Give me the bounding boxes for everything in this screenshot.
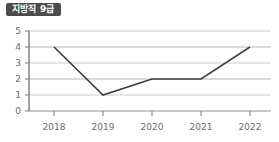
- x-tick-label: 2019: [92, 122, 115, 132]
- x-axis: [54, 111, 250, 116]
- chart-title-badge: 지방직 9급: [6, 3, 61, 16]
- x-tick-label: 2021: [190, 122, 213, 132]
- gridlines: [29, 31, 271, 111]
- y-tick-label: 1: [15, 90, 21, 100]
- line-chart-canvas: 5 4 3 2 1 0 2018 2019 2020 2021 2022: [0, 20, 279, 142]
- y-tick-label: 4: [15, 42, 21, 52]
- y-axis: [25, 31, 29, 111]
- page-title: 지방직 9급: [12, 5, 55, 14]
- y-tick-label: 5: [15, 26, 21, 36]
- y-tick-label: 3: [15, 58, 21, 68]
- x-tick-labels: 2018 2019 2020 2021 2022: [43, 122, 262, 132]
- y-tick-labels: 5 4 3 2 1 0: [15, 26, 21, 116]
- data-series-line: [54, 47, 250, 95]
- y-tick-label: 2: [15, 74, 21, 84]
- y-tick-label: 0: [15, 106, 21, 116]
- line-chart: 5 4 3 2 1 0 2018 2019 2020 2021 2022: [0, 20, 279, 142]
- x-tick-label: 2020: [141, 122, 164, 132]
- x-tick-label: 2022: [239, 122, 262, 132]
- chart-page: 지방직 9급: [0, 0, 279, 142]
- x-tick-label: 2018: [43, 122, 66, 132]
